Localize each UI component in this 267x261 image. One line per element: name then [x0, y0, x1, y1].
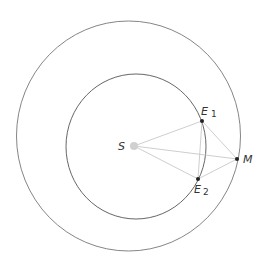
- orbit-diagram: S E1 E2 M: [0, 0, 267, 261]
- label-e1: E1: [201, 105, 217, 119]
- label-m: M: [243, 153, 253, 166]
- mars-dot: [235, 157, 239, 161]
- label-s: S: [118, 140, 125, 153]
- line-s-e2: [134, 146, 198, 179]
- earth-1-dot: [200, 119, 204, 123]
- line-e1-m: [202, 121, 237, 159]
- sight-lines: [134, 121, 237, 179]
- outer-orbit: [17, 21, 241, 251]
- label-e2: E2: [194, 183, 209, 197]
- line-s-m: [134, 146, 237, 159]
- sun-dot: [130, 142, 138, 150]
- line-e2-m: [198, 159, 237, 179]
- earth-2-dot: [196, 177, 200, 181]
- line-s-e1: [134, 121, 202, 146]
- line-e1-e2: [198, 121, 202, 179]
